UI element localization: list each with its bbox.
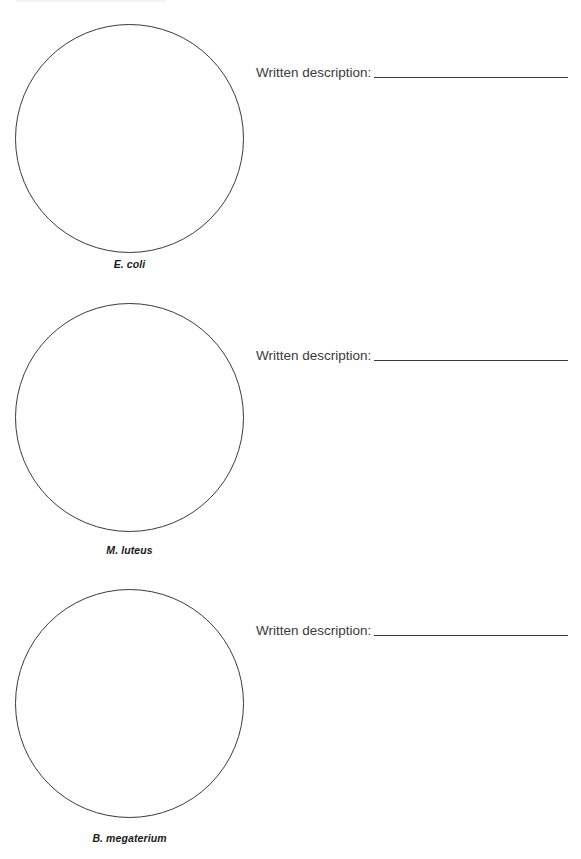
drawing-circle-m-luteus[interactable] — [15, 303, 244, 532]
cropped-header-remnant — [16, 0, 166, 3]
written-description-field[interactable] — [374, 358, 568, 361]
drawing-circle-e-coli[interactable] — [15, 24, 244, 253]
written-description-label: Written description: — [256, 65, 371, 81]
written-description-label: Written description: — [256, 623, 371, 639]
written-description-row: Written description: — [256, 621, 568, 639]
specimen-caption: E. coli — [15, 258, 244, 270]
drawing-circle-b-megaterium[interactable] — [15, 589, 244, 818]
specimen-caption: M. luteus — [15, 544, 244, 556]
written-description-row: Written description: — [256, 346, 568, 364]
written-description-row: Written description: — [256, 63, 568, 81]
written-description-field[interactable] — [374, 633, 568, 636]
specimen-caption: B. megaterium — [15, 832, 244, 844]
written-description-field[interactable] — [374, 75, 568, 78]
written-description-label: Written description: — [256, 348, 371, 364]
